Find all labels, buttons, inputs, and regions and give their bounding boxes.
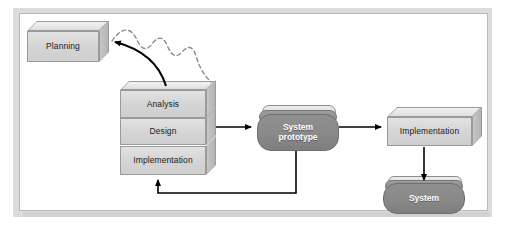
node-implementation-left[interactable]: Implementation	[120, 140, 216, 176]
implementation-left-side-face	[206, 136, 216, 175]
node-label-analysis: Analysis	[147, 100, 179, 109]
node-label-system: System	[409, 194, 439, 204]
implementation-left-front-face: Implementation	[120, 146, 206, 175]
node-system[interactable]: System	[383, 176, 465, 214]
node-planning[interactable]: Planning	[27, 21, 109, 62]
planning-front-face: Planning	[27, 31, 99, 62]
implementation-right-front-face: Implementation	[387, 117, 472, 146]
node-label-design: Design	[149, 127, 176, 136]
node-label-system-prototype-line2: prototype	[278, 133, 317, 143]
node-label-implementation-right: Implementation	[400, 127, 460, 136]
node-label-implementation-left: Implementation	[133, 156, 193, 165]
diagram-canvas: Planning Analysis Design Implementation …	[0, 0, 507, 226]
node-label-planning: Planning	[46, 42, 80, 51]
analysis-top-face	[120, 81, 215, 90]
implementation-right-top-face	[387, 107, 482, 117]
system-prototype-body: System prototype	[257, 114, 339, 151]
node-implementation-right[interactable]: Implementation	[387, 107, 482, 147]
system-body: System	[383, 183, 465, 214]
node-system-prototype[interactable]: System prototype	[257, 105, 339, 151]
planning-top-face	[27, 21, 109, 31]
